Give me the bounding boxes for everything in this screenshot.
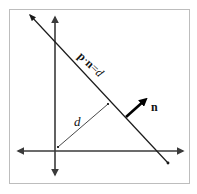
plane-diagram: p·n=d n d — [0, 0, 197, 194]
distance-label: d — [74, 114, 81, 129]
normal-label: n — [151, 100, 158, 114]
